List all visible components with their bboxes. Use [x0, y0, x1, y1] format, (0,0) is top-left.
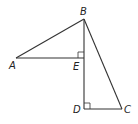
segment-bc [84, 19, 122, 109]
diagram-svg: B A E D C [0, 0, 138, 124]
label-c: C [124, 104, 131, 115]
label-b: B [80, 6, 87, 17]
right-angle-marker-d [84, 103, 90, 109]
label-a: A [8, 60, 16, 71]
label-e: E [73, 61, 80, 72]
segment-ab [16, 19, 84, 58]
geometry-diagram: B A E D C [0, 0, 138, 124]
right-angle-marker-e [78, 52, 84, 58]
label-d: D [73, 104, 81, 115]
